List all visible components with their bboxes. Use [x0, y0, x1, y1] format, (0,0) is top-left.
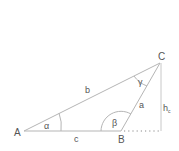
side-a-label: a	[139, 100, 144, 110]
vertex-c-label: C	[158, 51, 165, 62]
side-b-label: b	[85, 85, 90, 95]
angle-beta-label: β	[112, 118, 117, 128]
triangle-diagram: A B C a b c α β γ hc	[0, 0, 179, 151]
angle-alpha-arc	[59, 113, 61, 131]
angle-alpha-label: α	[44, 121, 49, 131]
angle-gamma-label: γ	[138, 77, 143, 87]
vertex-b-label: B	[118, 134, 125, 145]
height-label-subscript: c	[168, 108, 171, 114]
side-c-label: c	[74, 134, 79, 144]
height-label: hc	[163, 103, 171, 114]
vertex-a-label: A	[14, 127, 21, 138]
